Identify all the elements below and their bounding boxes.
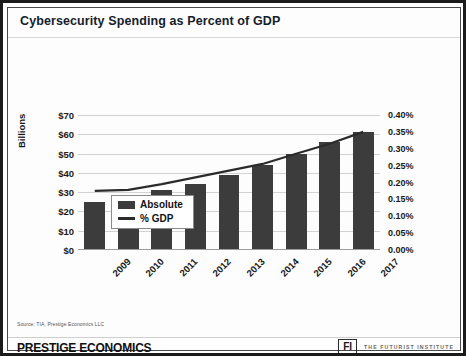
y-tick-left: $20	[14, 206, 74, 217]
x-tick-label: 2015	[311, 256, 334, 279]
legend-item-pct-gdp: % GDP	[118, 213, 183, 224]
chart: Billions $0$10$20$30$40$50$60$70 0.00%0.…	[18, 94, 452, 304]
line-swatch-icon	[118, 217, 135, 220]
y-tick-left: $70	[14, 110, 74, 121]
x-tick-label: 2013	[244, 256, 267, 279]
chart-legend: Absolute % GDP	[111, 195, 194, 229]
slide: Cybersecurity Spending as Percent of GDP…	[0, 0, 466, 356]
y-tick-left: $40	[14, 167, 74, 178]
y-tick-right: 0.10%	[388, 211, 442, 221]
legend-label-pct-gdp: % GDP	[140, 213, 173, 224]
page-title: Cybersecurity Spending as Percent of GDP	[20, 14, 280, 28]
fi-mark: FI	[338, 339, 357, 355]
x-tick-label: 2009	[110, 256, 133, 279]
y-tick-right: 0.20%	[388, 178, 442, 188]
y-tick-left: $30	[14, 187, 74, 198]
x-tick-label: 2010	[144, 256, 167, 279]
y-tick-left: $10	[14, 225, 74, 236]
x-tick-label: 2014	[278, 256, 301, 279]
y-tick-right: 0.00%	[388, 245, 442, 255]
bar-swatch-icon	[118, 201, 135, 209]
futurist-institute-logo: FI THE FUTURIST INSTITUTE	[338, 339, 454, 355]
y-tick-right: 0.15%	[388, 194, 442, 204]
brand-prestige-economics: PRESTIGE ECONOMICS	[17, 341, 151, 355]
y-tick-right: 0.35%	[388, 127, 442, 137]
legend-item-absolute: Absolute	[118, 199, 183, 210]
source-note: Source: TIA, Prestige Economics LLC	[17, 321, 104, 327]
y-tick-left: $60	[14, 129, 74, 140]
x-tick-label: 2016	[345, 256, 368, 279]
y-tick-right: 0.30%	[388, 144, 442, 154]
fi-name: THE FUTURIST INSTITUTE	[364, 344, 454, 350]
y-tick-right: 0.25%	[388, 161, 442, 171]
footer-divider	[8, 337, 460, 338]
x-axis-labels: 200920102011201220132014201520162017	[78, 252, 380, 302]
title-bar: Cybersecurity Spending as Percent of GDP	[8, 8, 460, 38]
line-series-pct-gdp	[78, 115, 380, 250]
x-tick-label: 2012	[211, 256, 234, 279]
slide-inner: Cybersecurity Spending as Percent of GDP…	[7, 7, 461, 351]
y-tick-left: $0	[14, 245, 74, 256]
legend-label-absolute: Absolute	[140, 199, 183, 210]
x-tick-label: 2017	[378, 256, 401, 279]
plot-area: $0$10$20$30$40$50$60$70 0.00%0.05%0.10%0…	[78, 115, 380, 250]
x-tick-label: 2011	[177, 256, 199, 278]
y-tick-right: 0.40%	[388, 110, 442, 120]
y-tick-right: 0.05%	[388, 228, 442, 238]
y-tick-left: $50	[14, 148, 74, 159]
x-axis-line	[78, 249, 380, 250]
